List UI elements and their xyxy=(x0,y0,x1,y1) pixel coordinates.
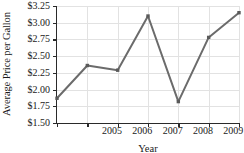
y-axis-tick-labels: $1.50$1.75$2.00$2.25$2.50$2.75$3.00$3.25 xyxy=(0,6,50,123)
y-axis-tick-label: $2.25 xyxy=(2,68,50,78)
x-axis-title: Year xyxy=(55,143,241,153)
x-axis-tick-labels: 2005200620072008200920102011 xyxy=(56,0,238,153)
gridline-vertical xyxy=(239,6,240,123)
y-axis-tick-label: $3.00 xyxy=(2,18,50,28)
y-axis-tick-label: $3.25 xyxy=(2,1,50,11)
y-axis-tick-label: $2.75 xyxy=(2,34,50,44)
y-axis-tick-label: $1.50 xyxy=(2,118,50,128)
x-axis-tick-label: 2009 xyxy=(213,125,244,136)
y-axis-tick-label: $1.75 xyxy=(2,101,50,111)
y-axis-tick-label: $2.00 xyxy=(2,85,50,95)
line-chart: Average Price per Gallon $1.50$1.75$2.00… xyxy=(0,0,244,153)
y-axis-tick-label: $2.50 xyxy=(2,51,50,61)
